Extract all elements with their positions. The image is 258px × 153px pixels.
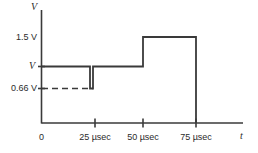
waveform-trace: [42, 37, 196, 123]
x-tick-label-75usec: 75 µsec: [169, 133, 223, 142]
y-tick-label-v: V: [0, 61, 35, 71]
y-tick-label-0-66v: 0.66 V: [0, 84, 37, 93]
x-tick-label-0: 0: [34, 133, 49, 142]
x-axis-label: t: [240, 131, 243, 141]
x-tick-label-25usec: 25 µsec: [68, 133, 122, 142]
waveform-plot: [0, 0, 258, 153]
waveform-figure: V 1.5 V V 0.66 V 0 25 µsec 50 µsec 75 µs…: [0, 0, 258, 153]
y-axis-label: V: [31, 2, 37, 12]
y-tick-label-1-5v: 1.5 V: [0, 33, 37, 42]
x-tick-label-50usec: 50 µsec: [116, 133, 170, 142]
